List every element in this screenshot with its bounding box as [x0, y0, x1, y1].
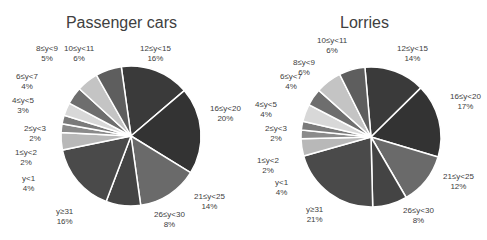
- data-label: 10≤y<116%: [317, 36, 347, 56]
- data-label: 2≤y<32%: [265, 124, 287, 144]
- data-label: 6≤y<74%: [16, 72, 38, 92]
- chart-title: Passenger cars: [0, 14, 243, 32]
- data-label: 10≤y<116%: [64, 44, 94, 64]
- data-label: 26≤y<308%: [403, 206, 434, 226]
- data-label: 12≤y<1514%: [397, 44, 428, 64]
- data-label: 4≤y<54%: [255, 100, 277, 120]
- data-label: y<14%: [22, 174, 35, 194]
- data-label: 4≤y<53%: [12, 96, 34, 116]
- data-label: y<14%: [275, 178, 288, 198]
- data-label: 26≤y<308%: [154, 210, 185, 230]
- data-label: 8≤y<95%: [36, 44, 58, 64]
- data-label: y≥3121%: [306, 205, 323, 225]
- lorries-chart: Lorries 12≤y<1514% 16≤y<2017% 21≤y<2512%…: [243, 0, 486, 240]
- lorries-pie: [243, 0, 487, 240]
- data-label: 2≤y<32%: [24, 124, 46, 144]
- data-label: 16≤y<2020%: [210, 104, 241, 124]
- data-label: 21≤y<2514%: [194, 192, 225, 212]
- data-label: 21≤y<2512%: [443, 172, 474, 192]
- data-label: 12≤y<1516%: [140, 44, 171, 64]
- data-label: 1≤y<22%: [257, 156, 279, 176]
- chart-title: Lorries: [243, 14, 486, 32]
- passenger-cars-chart: Passenger cars 12≤y<1516% 16≤y<2020% 21≤…: [0, 0, 243, 240]
- data-label: 16≤y<2017%: [450, 92, 481, 112]
- data-label: 1≤y<22%: [15, 148, 37, 168]
- data-label: 8≤y<96%: [293, 58, 315, 78]
- data-label: y≥3116%: [56, 207, 73, 227]
